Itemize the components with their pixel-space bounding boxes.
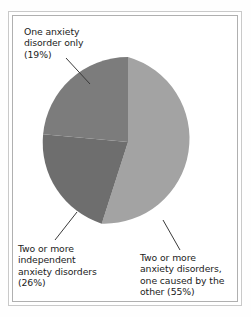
pie-label-one-disorder-only: One anxiety disorder only (19%) <box>24 26 116 60</box>
pie-label-independent: Two or more independent anxiety disorder… <box>18 243 120 289</box>
pie-label-caused-by-other: Two or more anxiety disorders, one cause… <box>140 252 244 298</box>
pie-chart-figure: One anxiety disorder only (19%) Two or m… <box>0 0 251 317</box>
leader-line-caused-by-other <box>163 220 180 250</box>
pie-slice-one-disorder-only[interactable] <box>43 57 128 142</box>
leader-line-independent <box>55 212 77 240</box>
